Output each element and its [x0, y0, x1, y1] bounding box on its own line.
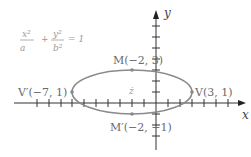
svg-text:M(−2, 3): M(−2, 3) [113, 54, 163, 67]
svg-text:V′(−7, 1): V′(−7, 1) [17, 86, 67, 99]
svg-text:M′(−2, −1): M′(−2, −1) [110, 121, 172, 134]
svg-text:= 1: = 1 [68, 34, 84, 44]
y-axis-arrow-icon [153, 10, 159, 19]
x-axis: x [14, 99, 249, 122]
svg-text:b²: b² [53, 43, 63, 53]
ellipse-diagram: x² a + y² b² = 1 x [0, 0, 251, 157]
point-M-prime: M′(−2, −1) [110, 112, 172, 134]
y-axis-label: y [163, 6, 171, 20]
svg-text:+: + [41, 34, 49, 44]
point-V: V(3, 1) [190, 86, 232, 99]
svg-text:a: a [20, 43, 25, 53]
point-V-prime: V′(−7, 1) [17, 86, 74, 99]
svg-text:x²: x² [22, 29, 31, 39]
center-mark: ż [128, 86, 134, 96]
handwritten-equation: x² a + y² b² = 1 [20, 29, 84, 53]
svg-text:V(3, 1): V(3, 1) [194, 86, 233, 99]
x-axis-label: x [242, 108, 249, 122]
x-axis-arrow-icon [238, 100, 246, 106]
svg-text:y²: y² [52, 29, 62, 39]
